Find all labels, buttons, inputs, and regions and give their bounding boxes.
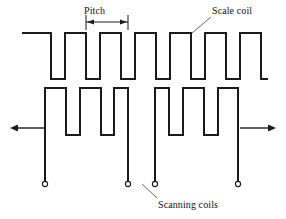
scanning-coil-left-winding [45, 88, 128, 184]
motion-arrow-left-head [10, 124, 18, 131]
pitch-dimension [86, 15, 128, 30]
motion-arrow-right [240, 124, 276, 131]
terminal-1 [42, 181, 47, 186]
pitch-arrow-head-left [87, 19, 94, 24]
scanning-coil-right-winding [155, 88, 238, 184]
figure-root: Pitch Scale coil Scanning coils [0, 0, 286, 219]
pitch-label: Pitch [84, 6, 105, 16]
encoder-coil-diagram [0, 0, 286, 219]
scale-coil-leader-line [192, 17, 211, 33]
motion-arrow-left [10, 124, 44, 131]
scale-coil-label: Scale coil [212, 6, 252, 16]
scale-coil-winding [22, 33, 268, 79]
terminal-4 [235, 181, 240, 186]
terminal-3 [152, 181, 157, 186]
terminal-2 [125, 181, 130, 186]
scanning-coils-label: Scanning coils [158, 200, 218, 210]
motion-arrow-right-head [268, 124, 276, 131]
pitch-arrow-head-right [120, 19, 127, 24]
